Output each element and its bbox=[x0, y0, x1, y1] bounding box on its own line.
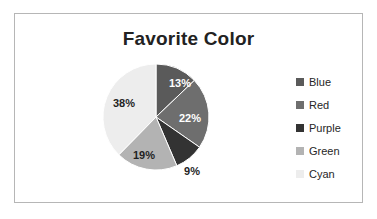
legend-item-red[interactable]: Red bbox=[296, 93, 362, 116]
pie-slice-label: 13% bbox=[169, 77, 191, 89]
legend-item-label: Blue bbox=[309, 76, 331, 88]
legend-swatch-icon bbox=[296, 170, 304, 178]
legend-item-label: Purple bbox=[309, 122, 341, 134]
chart-panel: Favorite Color 13%22%9%19%38% BlueRedPur… bbox=[14, 13, 363, 203]
pie-svg: 13%22%9%19%38% bbox=[101, 62, 211, 172]
chart-legend: BlueRedPurpleGreenCyan bbox=[296, 70, 362, 185]
legend-item-green[interactable]: Green bbox=[296, 139, 362, 162]
pie-slice-label: 22% bbox=[179, 112, 201, 124]
page-title: Favorite Color bbox=[15, 28, 362, 50]
legend-item-blue[interactable]: Blue bbox=[296, 70, 362, 93]
pie-slice-label: 9% bbox=[184, 165, 200, 177]
pie-slice-label: 38% bbox=[113, 97, 135, 109]
legend-item-label: Cyan bbox=[309, 168, 335, 180]
legend-item-label: Red bbox=[309, 99, 329, 111]
legend-item-purple[interactable]: Purple bbox=[296, 116, 362, 139]
legend-item-label: Green bbox=[309, 145, 340, 157]
pie-chart: 13%22%9%19%38% bbox=[101, 62, 211, 172]
legend-swatch-icon bbox=[296, 101, 304, 109]
legend-item-cyan[interactable]: Cyan bbox=[296, 162, 362, 185]
pie-slice-label: 19% bbox=[133, 149, 155, 161]
legend-swatch-icon bbox=[296, 78, 304, 86]
legend-swatch-icon bbox=[296, 147, 304, 155]
legend-swatch-icon bbox=[296, 124, 304, 132]
